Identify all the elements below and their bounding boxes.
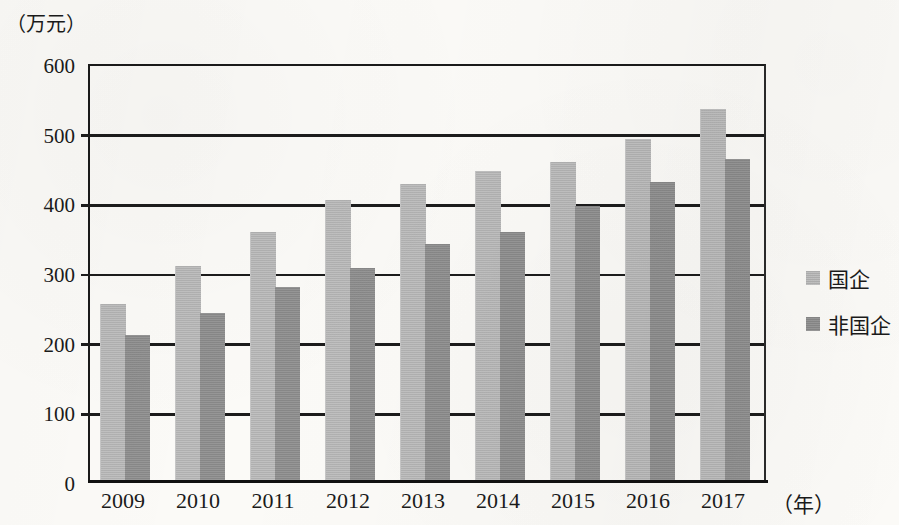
bar-2014-nonstate	[500, 232, 525, 482]
bar-2017-state	[700, 109, 726, 482]
plot-area: 0100200300400500600	[88, 64, 766, 482]
legend-item-nonstate: 非国企	[806, 301, 891, 347]
y-axis-unit-label: （万元）	[6, 8, 86, 37]
x-axis-tick-label: 2017	[697, 488, 749, 514]
y-axis-tick-label: 600	[44, 54, 76, 79]
legend-swatch-state-icon	[806, 271, 820, 285]
y-axis-tick	[81, 134, 90, 136]
gridline	[90, 134, 764, 136]
y-axis-tick-label: 400	[44, 193, 76, 218]
bar-2012-nonstate	[350, 268, 375, 482]
bar-2015-state	[550, 162, 576, 482]
x-axis-tick-label: 2010	[172, 488, 224, 514]
bar-2011-state	[250, 232, 276, 482]
y-axis-tick-label: 500	[44, 123, 76, 148]
x-axis-tick-label: 2015	[547, 488, 599, 514]
bar-2017-nonstate	[725, 159, 750, 482]
bar-2013-nonstate	[425, 244, 450, 482]
bar-2009-state	[100, 304, 126, 482]
bar-2010-nonstate	[200, 313, 225, 482]
bar-2011-nonstate	[275, 287, 300, 482]
y-axis-tick-label: 100	[44, 402, 76, 427]
y-axis-tick-label: 300	[44, 263, 76, 288]
x-axis-unit-label: （年）	[772, 488, 835, 518]
bar-chart-figure: （万元） 0100200300400500600 国企 非国企 （年） 2009…	[0, 0, 899, 525]
x-axis-tick-label: 2016	[622, 488, 674, 514]
y-axis-tick	[81, 343, 90, 345]
bar-2016-nonstate	[650, 182, 675, 482]
legend-swatch-nonstate-icon	[806, 317, 820, 331]
bar-2016-state	[625, 139, 651, 482]
y-axis-tick	[81, 274, 90, 276]
chart-legend: 国企 非国企	[806, 255, 891, 347]
legend-label-nonstate: 非国企	[828, 309, 891, 339]
bar-2015-nonstate	[575, 206, 600, 482]
y-axis-tick-label: 200	[44, 332, 76, 357]
x-axis-line	[88, 480, 768, 483]
x-axis-tick-label: 2012	[322, 488, 374, 514]
bar-2009-nonstate	[125, 335, 150, 482]
y-axis-tick	[81, 413, 90, 415]
x-axis-tick-label: 2014	[472, 488, 524, 514]
bar-2014-state	[475, 171, 501, 482]
y-axis-tick-label: 0	[65, 472, 76, 497]
x-axis-tick-label: 2013	[397, 488, 449, 514]
x-axis-tick-label: 2009	[97, 488, 149, 514]
legend-label-state: 国企	[828, 263, 870, 293]
bar-2012-state	[325, 200, 351, 482]
bar-2010-state	[175, 266, 201, 482]
y-axis-tick	[81, 204, 90, 206]
x-axis-tick-label: 2011	[247, 488, 299, 514]
legend-item-state: 国企	[806, 255, 891, 301]
bar-2013-state	[400, 184, 426, 482]
